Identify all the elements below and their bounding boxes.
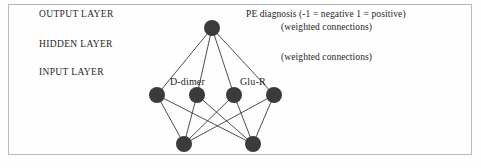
- layer-label-output: OUTPUT LAYER: [39, 9, 114, 19]
- annotation-weighted-connections-top: (weighted connections): [281, 22, 372, 32]
- annotation-weighted-connections-bottom: (weighted connections): [281, 52, 372, 62]
- node-label-d-dimer: D-dimer: [170, 76, 205, 87]
- annotation-pe-diagnosis: PE diagnosis (-1 = negative 1 = positive…: [246, 9, 406, 19]
- layer-label-hidden: HIDDEN LAYER: [39, 39, 113, 49]
- node-label-glu-r: Glu-R: [240, 76, 266, 87]
- figure-canvas: OUTPUT LAYER HIDDEN LAYER INPUT LAYER PE…: [0, 0, 481, 168]
- layer-label-input: INPUT LAYER: [39, 67, 104, 77]
